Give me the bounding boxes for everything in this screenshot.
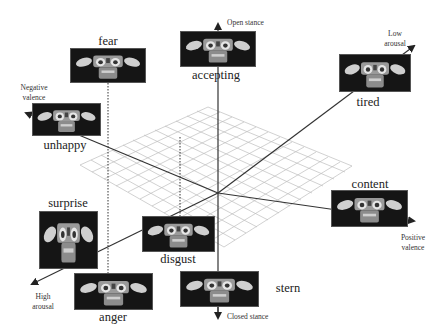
axis-label-high-arousal-line1: High [32,292,54,302]
axis-label-positive-valence-line2: valence [401,243,425,253]
emotion-label-content: content [352,178,389,191]
robot-face-image-tired [339,54,411,92]
robot-face-image-unhappy [32,103,101,136]
axis-label-positive-valence-line1: Positive [401,233,425,243]
grid-plane [80,107,352,247]
axis-label-open-stance: Open stance [227,18,264,28]
robot-face-image-content [331,190,408,227]
emotion-label-anger: anger [99,311,127,324]
emotion-label-accepting: accepting [192,69,240,82]
axis-label-low-arousal-line2: arousal [384,39,406,49]
axis-label-high-arousal-line2: arousal [32,302,54,312]
axis-label-positive-valence: Positive valence [401,233,425,253]
axis-label-closed-stance: Closed stance [227,312,268,322]
axis-label-negative-valence-line1: Negative [20,83,47,93]
robot-face-image-surprise [39,211,98,269]
axis-label-negative-valence: Negative valence [20,83,47,103]
axis-label-low-arousal-line1: Low [384,29,406,39]
axis-label-low-arousal: Low arousal [384,29,406,49]
robot-face-image-fear [70,48,146,83]
axis-label-high-arousal: High arousal [32,292,54,312]
robot-face-image-disgust [142,216,215,252]
robot-face-image-anger [74,273,153,310]
emotion-label-stern: stern [276,282,300,295]
emotion-label-surprise: surprise [48,197,88,210]
robot-face-image-stern [180,271,259,307]
emotion-label-tired: tired [357,96,380,109]
emotion-label-disgust: disgust [160,253,195,266]
emotion-label-fear: fear [98,35,117,48]
emotion-label-unhappy: unhappy [43,139,86,152]
robot-face-image-accepting [180,31,256,67]
axis-label-negative-valence-line2: valence [20,93,47,103]
